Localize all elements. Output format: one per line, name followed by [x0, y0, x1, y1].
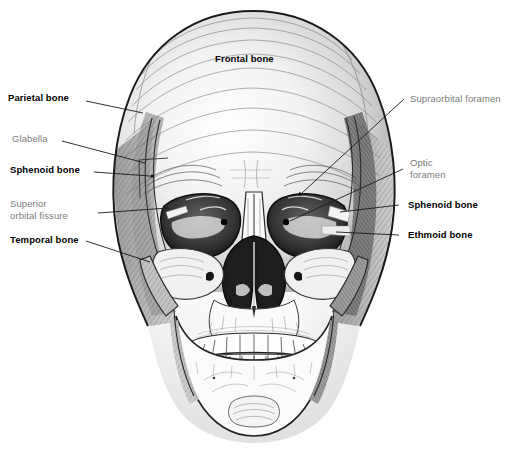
optic-foramen-right: [283, 219, 289, 225]
label-ethmoid-bone: Ethmoid bone: [408, 230, 473, 241]
skull-illustration: [113, 11, 394, 443]
label-superior-orbital-fissure-line2: orbital fissure: [10, 211, 68, 222]
label-superior-orbital-fissure-line1: Superior: [10, 199, 47, 210]
label-optic-foramen-line2: foramen: [410, 170, 446, 181]
label-optic-foramen-line1: Optic: [410, 158, 433, 169]
supraorbital-foramen-marker: [298, 192, 301, 195]
label-frontal-bone: Frontal bone: [215, 54, 274, 65]
label-temporal-bone: Temporal bone: [10, 235, 79, 246]
label-glabella: Glabella: [12, 134, 48, 145]
ethmoid-plate-right: [322, 226, 350, 236]
sphenoid-marker-left: [150, 174, 153, 177]
label-supraorbital-foramen: Supraorbital foramen: [410, 94, 501, 105]
label-parietal-bone: Parietal bone: [8, 93, 69, 104]
label-sphenoid-bone-left: Sphenoid bone: [10, 165, 80, 176]
label-sphenoid-bone-right: Sphenoid bone: [408, 200, 478, 211]
